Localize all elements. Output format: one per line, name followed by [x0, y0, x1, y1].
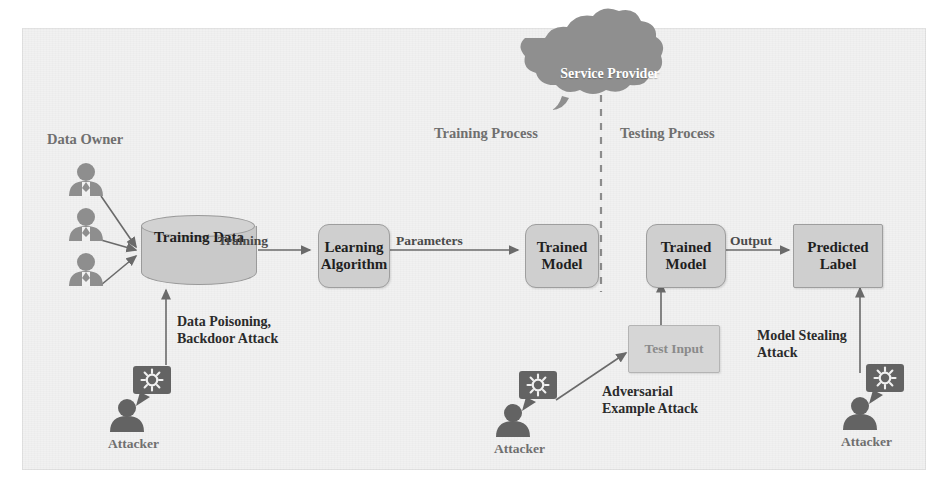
diagram-canvas: Service Provider Training Process Testin…: [0, 0, 948, 494]
attacker-caption-center: Attacker: [494, 441, 545, 457]
trained-model-node-training[interactable]: Trained Model: [525, 224, 599, 288]
diagram-frame: Service Provider Training Process Testin…: [22, 28, 926, 470]
model-stealing-attack-label: Model Stealing Attack: [757, 328, 847, 361]
predicted-label-node[interactable]: Predicted Label: [793, 224, 883, 288]
attacker-icon-center: [496, 371, 557, 437]
test-input-node[interactable]: Test Input: [628, 325, 720, 373]
attacker-caption-right: Attacker: [841, 434, 892, 450]
attacker-icon-left: [110, 366, 171, 432]
service-provider-label: Service Provider: [534, 66, 686, 83]
data-owner-label: Data Owner: [47, 131, 123, 148]
attacker-icon-right: [843, 364, 904, 430]
service-provider-cloud: Service Provider: [534, 52, 686, 128]
edge-label-training: Training: [218, 233, 268, 249]
edge-label-output: Output: [730, 233, 772, 249]
trained-model-node-testing[interactable]: Trained Model: [646, 224, 726, 288]
learning-algorithm-node[interactable]: Learning Algorithm: [318, 224, 390, 288]
data-owner-icon-2: [69, 208, 103, 241]
training-process-label: Training Process: [434, 125, 538, 142]
edge-label-parameters: Parameters: [396, 233, 463, 249]
data-owner-icon-3: [69, 253, 103, 286]
data-owner-arrows: [101, 196, 136, 285]
data-owner-icon-1: [69, 163, 103, 196]
adversarial-example-attack-label: Adversarial Example Attack: [602, 384, 698, 417]
data-poisoning-attack-label: Data Poisoning, Backdoor Attack: [177, 314, 278, 347]
attacker-caption-left: Attacker: [108, 436, 159, 452]
training-data-cylinder[interactable]: Training Data: [141, 215, 257, 297]
testing-process-label: Testing Process: [620, 125, 715, 142]
